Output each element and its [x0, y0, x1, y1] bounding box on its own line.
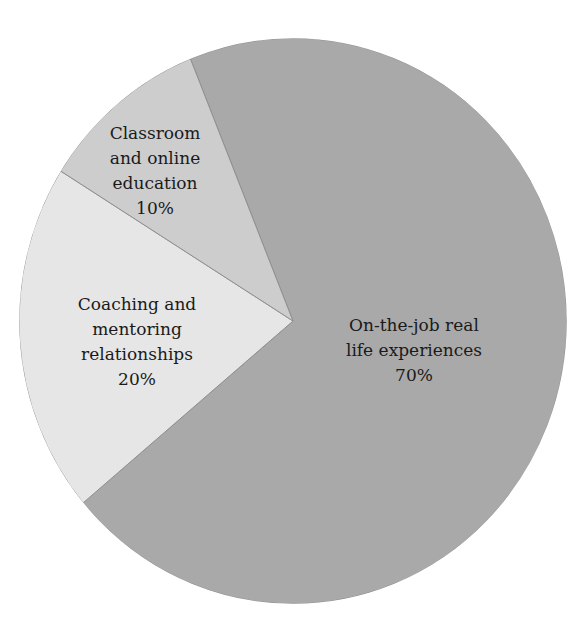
label-coaching-line-2: mentoring — [78, 317, 197, 342]
label-coaching-line-1: Coaching and — [78, 292, 197, 317]
label-on-the-job-value: 70% — [346, 363, 482, 388]
label-on-the-job-line-2: life experiences — [346, 338, 482, 363]
label-on-the-job-line-1: On-the-job real — [346, 313, 482, 338]
label-on-the-job: On-the-job real life experiences 70% — [346, 313, 482, 388]
label-classroom-line-3: education — [110, 171, 201, 196]
label-coaching-value: 20% — [78, 367, 197, 392]
label-classroom-line-1: Classroom — [110, 121, 201, 146]
label-classroom-value: 10% — [110, 196, 201, 221]
label-coaching-line-3: relationships — [78, 342, 197, 367]
label-classroom: Classroom and online education 10% — [110, 121, 201, 221]
label-coaching: Coaching and mentoring relationships 20% — [78, 292, 197, 392]
label-classroom-line-2: and online — [110, 146, 201, 171]
